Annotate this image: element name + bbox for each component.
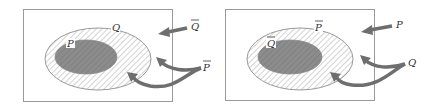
top-arrow-label: Q bbox=[191, 21, 199, 32]
left-panel: Q P Q P bbox=[24, 10, 212, 102]
arrow-icon bbox=[361, 25, 392, 35]
top-arrow-label: P bbox=[395, 19, 403, 30]
outer-set-label: P bbox=[314, 22, 322, 33]
outer-set-label: Q bbox=[112, 22, 120, 33]
inner-set-p bbox=[55, 40, 117, 74]
inner-set-label: Q bbox=[267, 38, 275, 49]
inner-set-label: P bbox=[66, 38, 74, 49]
venn-diagram-pair: Q P Q P P Q bbox=[0, 0, 438, 109]
fork-arrow-label: P bbox=[202, 62, 210, 73]
fork-arrow-label: Q bbox=[408, 57, 416, 68]
right-panel: P Q P Q bbox=[226, 10, 417, 101]
